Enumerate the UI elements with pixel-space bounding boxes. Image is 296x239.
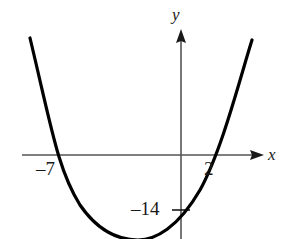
x-axis-arrow-icon [250,150,264,160]
x-intercept-left-label: –7 [36,159,55,178]
y-axis-arrow-icon [176,29,186,43]
y-intercept-label: –14 [131,199,160,218]
y-axis-label: y [172,6,180,23]
x-intercept-right-label: 2 [204,159,214,178]
x-axis-label: x [268,146,276,163]
parabola-figure: y x –7 2 –14 [0,0,296,239]
y-axis [176,29,186,239]
